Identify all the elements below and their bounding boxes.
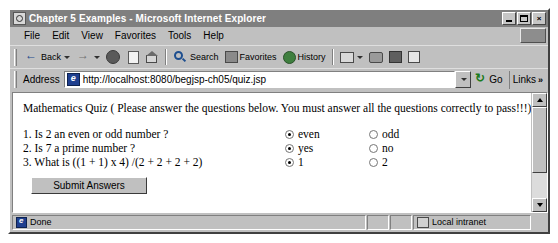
scroll-up-button[interactable] bbox=[532, 93, 547, 107]
minimize-button[interactable] bbox=[502, 12, 516, 25]
menu-bar: File Edit View Favorites Tools Help bbox=[10, 27, 548, 45]
document-icon bbox=[16, 217, 27, 228]
menu-item-tools[interactable]: Tools bbox=[162, 29, 197, 42]
radio-button[interactable] bbox=[285, 158, 294, 167]
browser-window: Chapter 5 Examples - Microsoft Internet … bbox=[8, 8, 550, 234]
radio-button[interactable] bbox=[369, 130, 378, 139]
radio-button[interactable] bbox=[369, 158, 378, 167]
history-icon bbox=[283, 51, 296, 64]
back-label: Back bbox=[41, 52, 61, 62]
forward-chevron-down-icon[interactable] bbox=[94, 56, 100, 59]
chevron-down-icon bbox=[461, 78, 467, 81]
status-bar: Done Local intranet bbox=[10, 213, 548, 232]
ie-logo-icon bbox=[520, 28, 546, 43]
close-button[interactable]: × bbox=[532, 12, 546, 25]
menu-item-file[interactable]: File bbox=[18, 29, 46, 42]
print-icon bbox=[369, 52, 383, 63]
title-bar: Chapter 5 Examples - Microsoft Internet … bbox=[10, 10, 548, 27]
option-label: odd bbox=[382, 128, 399, 140]
address-input[interactable]: http://localhost:8080/begjsp-ch05/quiz.j… bbox=[64, 71, 456, 88]
scrollbar-track[interactable] bbox=[532, 107, 547, 198]
radio-button[interactable] bbox=[285, 130, 294, 139]
question-row: 2. Is 7 a prime number ? yes no bbox=[23, 141, 531, 155]
menu-item-view[interactable]: View bbox=[75, 29, 109, 42]
mail-chevron-down-icon[interactable] bbox=[357, 56, 363, 59]
radio-button[interactable] bbox=[285, 144, 294, 153]
security-zone-panel: Local intranet bbox=[413, 215, 531, 230]
links-button[interactable]: Links » bbox=[509, 71, 546, 89]
go-icon bbox=[475, 74, 487, 86]
answer-option[interactable]: no bbox=[369, 142, 453, 154]
edit-icon bbox=[389, 51, 402, 63]
status-message-panel: Done bbox=[12, 215, 366, 230]
security-zone-text: Local intranet bbox=[432, 217, 486, 227]
question-text: 1. Is 2 an even or odd number ? bbox=[23, 128, 285, 140]
status-panel-extra-2 bbox=[390, 215, 412, 230]
submit-answers-button[interactable]: Submit Answers bbox=[31, 177, 147, 194]
question-row: 1. Is 2 an even or odd number ? even odd bbox=[23, 127, 531, 141]
vertical-scrollbar[interactable] bbox=[531, 93, 547, 212]
quiz-page: Mathematics Quiz ( Please answer the que… bbox=[13, 93, 531, 212]
scroll-down-button[interactable] bbox=[532, 198, 547, 212]
address-label: Address bbox=[23, 74, 60, 85]
back-arrow-icon bbox=[24, 50, 39, 64]
answer-option[interactable]: 1 bbox=[285, 156, 369, 168]
go-button[interactable]: Go bbox=[471, 71, 506, 89]
toolbar: Back Search Favorites History bbox=[10, 45, 548, 68]
window-title: Chapter 5 Examples - Microsoft Internet … bbox=[29, 13, 502, 24]
back-button[interactable]: Back bbox=[21, 48, 73, 67]
stop-icon bbox=[106, 50, 120, 64]
double-chevron-icon: » bbox=[538, 75, 543, 85]
go-label: Go bbox=[489, 74, 502, 85]
answer-option[interactable]: 2 bbox=[369, 156, 453, 168]
question-text: 2. Is 7 a prime number ? bbox=[23, 142, 285, 154]
menu-item-favorites[interactable]: Favorites bbox=[109, 29, 162, 42]
address-dropdown-button[interactable] bbox=[455, 71, 471, 88]
forward-arrow-icon bbox=[76, 50, 91, 64]
resize-grip[interactable] bbox=[533, 215, 547, 229]
maximize-button[interactable] bbox=[517, 12, 531, 25]
radio-button[interactable] bbox=[369, 144, 378, 153]
refresh-icon bbox=[128, 51, 139, 64]
answer-option[interactable]: odd bbox=[369, 128, 453, 140]
forward-button[interactable] bbox=[73, 48, 103, 67]
quiz-heading: Mathematics Quiz ( Please answer the que… bbox=[23, 102, 531, 114]
edit-button[interactable] bbox=[386, 48, 405, 67]
favorites-label: Favorites bbox=[240, 52, 277, 62]
option-label: yes bbox=[298, 142, 313, 154]
discuss-button[interactable] bbox=[405, 48, 423, 67]
content-area: Mathematics Quiz ( Please answer the que… bbox=[10, 91, 548, 213]
back-chevron-down-icon[interactable] bbox=[64, 56, 70, 59]
home-button[interactable] bbox=[142, 48, 162, 67]
answer-option[interactable]: yes bbox=[285, 142, 369, 154]
address-url-text: http://localhost:8080/begjsp-ch05/quiz.j… bbox=[83, 74, 455, 85]
scrollbar-thumb[interactable] bbox=[532, 107, 547, 173]
mail-button[interactable] bbox=[337, 48, 366, 67]
document-viewport: Mathematics Quiz ( Please answer the que… bbox=[12, 92, 548, 213]
favorites-button[interactable]: Favorites bbox=[222, 48, 280, 67]
window-controls: × bbox=[502, 12, 546, 25]
refresh-button[interactable] bbox=[123, 48, 142, 67]
print-button[interactable] bbox=[366, 48, 386, 67]
question-row: 3. What is ((1 + 1) x 4) /(2 + 2 + 2 + 2… bbox=[23, 155, 531, 169]
intranet-zone-icon bbox=[417, 217, 429, 228]
option-label: 1 bbox=[298, 156, 304, 168]
menu-item-edit[interactable]: Edit bbox=[46, 29, 75, 42]
search-button[interactable]: Search bbox=[170, 48, 222, 67]
search-icon bbox=[173, 50, 188, 64]
address-bar-grip[interactable] bbox=[14, 71, 17, 88]
option-label: even bbox=[298, 128, 320, 140]
option-label: 2 bbox=[382, 156, 388, 168]
menu-item-help[interactable]: Help bbox=[197, 29, 230, 42]
search-label: Search bbox=[190, 52, 219, 62]
toolbar-grip[interactable] bbox=[14, 49, 17, 66]
history-button[interactable]: History bbox=[280, 48, 329, 67]
answer-option[interactable]: even bbox=[285, 128, 369, 140]
history-label: History bbox=[298, 52, 326, 62]
stop-button[interactable] bbox=[103, 48, 123, 67]
toolbar-separator bbox=[165, 49, 167, 65]
question-text: 3. What is ((1 + 1) x 4) /(2 + 2 + 2 + 2… bbox=[23, 156, 285, 168]
discuss-icon bbox=[408, 51, 420, 63]
mail-icon bbox=[340, 52, 354, 63]
application-icon bbox=[13, 12, 26, 25]
